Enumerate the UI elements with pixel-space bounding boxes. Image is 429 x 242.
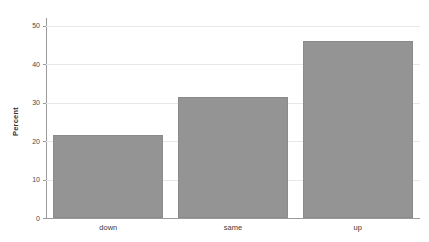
bar-same[interactable] [178, 97, 288, 218]
x-axis-tick-label-same: same [171, 224, 296, 232]
x-axis-tick-label-down: down [46, 224, 171, 232]
y-axis-tick-label: 50 [8, 22, 40, 29]
y-axis-tick-mark [43, 218, 46, 219]
y-axis-tick-label: 20 [8, 138, 40, 145]
x-axis-tick-label-up: up [295, 224, 420, 232]
y-axis-tick-label: 0 [8, 215, 40, 222]
y-axis-tick-label: 30 [8, 99, 40, 106]
bar-up[interactable] [303, 41, 413, 218]
y-axis-label-text: Percent [11, 107, 20, 136]
chart-title [0, 0, 429, 5]
y-axis-label: Percent [8, 86, 22, 156]
plot-area [46, 18, 420, 218]
y-axis-tick-label: 40 [8, 61, 40, 68]
gridline [46, 26, 420, 27]
bar-down[interactable] [53, 135, 163, 218]
x-axis-line [46, 218, 420, 219]
bar-chart: Percent 01020304050 downsameup [0, 0, 429, 242]
y-axis-tick-label: 10 [8, 176, 40, 183]
